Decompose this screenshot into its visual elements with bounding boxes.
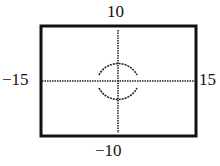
plot-area <box>0 0 220 166</box>
graph-window: 10 −10 −15 15 <box>0 0 220 166</box>
